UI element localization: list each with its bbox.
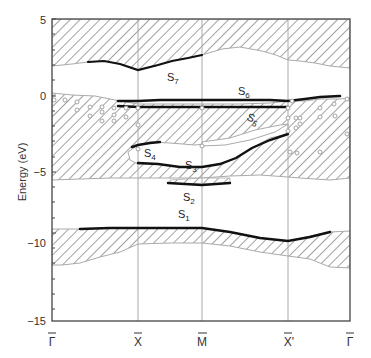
- k-label-m: M: [197, 335, 207, 349]
- y-tick-minus-5: −5: [33, 166, 46, 178]
- label-s2: S2: [183, 191, 195, 206]
- k-label-x-prime: X': [284, 335, 294, 349]
- y-tick-minus-15: −15: [27, 315, 46, 327]
- y-tick-0: 0: [40, 90, 46, 102]
- label-s6: S6: [238, 85, 250, 100]
- y-tick-minus-10: −10: [27, 237, 46, 249]
- y-tick-5: 5: [40, 14, 46, 26]
- band-s6: [118, 96, 340, 101]
- k-point-labels: Γ X M X' Γ: [48, 333, 354, 349]
- k-label-gamma-right: Γ: [347, 335, 354, 349]
- y-axis-title: Energy (eV): [16, 143, 28, 202]
- bulk-band-lower: [52, 228, 350, 268]
- label-s7: S7: [167, 71, 179, 86]
- k-label-x: X: [134, 335, 142, 349]
- label-s1: S1: [178, 208, 190, 223]
- band-structure-diagram: 5 0 −5 −10 −15 Energy (eV) Γ X M X' Γ S7…: [0, 0, 371, 358]
- k-label-gamma-left: Γ: [49, 335, 56, 349]
- bulk-band-regions: [52, 19, 350, 268]
